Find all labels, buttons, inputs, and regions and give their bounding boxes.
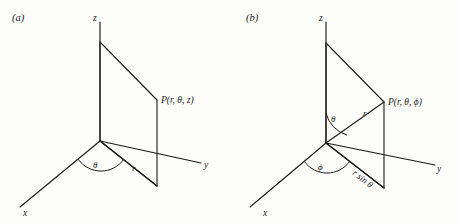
x-axis-label: x — [22, 208, 28, 218]
y-axis-label: y — [436, 164, 442, 174]
theta-angle-label: θ — [93, 160, 98, 170]
point-p-label: P(r, θ, z) — [160, 95, 194, 106]
x-axis-line — [20, 141, 100, 207]
panel-tag-b: (b) — [246, 12, 259, 24]
panel-cylindrical: (a) z y x r θ P(r, θ, z) — [0, 0, 230, 223]
panel-spherical: (b) z y x r r sin θ θ — [230, 0, 459, 223]
y-axis-line — [326, 143, 435, 165]
r-segment-label: r — [132, 163, 136, 173]
panel-tag-a: (a) — [12, 12, 25, 24]
r-sin-theta-label: r sin θ — [351, 168, 376, 190]
plane-top-edge — [100, 42, 157, 100]
y-axis-line — [100, 141, 201, 163]
x-axis-label: x — [262, 208, 268, 218]
theta-arc — [78, 159, 124, 171]
z-axis-label: z — [318, 13, 323, 23]
r-radius-label: r — [363, 108, 367, 118]
x-axis-line — [250, 143, 326, 207]
point-p-label: P(r, θ, ϕ) — [387, 97, 422, 108]
plane-top-edge — [326, 43, 384, 102]
theta-arc — [326, 113, 347, 135]
phi-angle-label: ϕ — [318, 162, 323, 172]
figure-root: (a) z y x r θ P(r, θ, z) — [0, 0, 459, 223]
phi-arc — [304, 161, 350, 173]
z-axis-label: z — [92, 13, 97, 23]
spherical-diagram-svg: (b) z y x r r sin θ θ — [230, 0, 459, 223]
theta-angle-label: θ — [331, 114, 336, 124]
cylindrical-diagram-svg: (a) z y x r θ P(r, θ, z) — [0, 0, 230, 223]
y-axis-label: y — [203, 160, 209, 170]
